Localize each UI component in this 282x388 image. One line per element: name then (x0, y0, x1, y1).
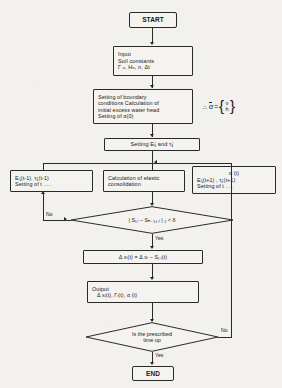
node-input-line2: Soil constants (118, 58, 188, 65)
node-right-feedback: α (t) Eᵢⱼ(t+1) , τᵢⱼ(t+1) Setting of t .… (192, 166, 276, 194)
node-left-feedback: Eᵢⱼ(t-1), τᵢⱼ(t-1) Setting of t ..... (10, 170, 93, 192)
edge-bus-to-left-box (43, 163, 44, 170)
annotation-alpha-vector: ∴ α = { v h } (203, 100, 235, 112)
node-center-line2: consolidation (108, 181, 180, 187)
node-output-line2: Δ xᵢ(t), Γᵢ(t), α (t) (92, 292, 194, 298)
node-right-feedback-line3: Setting of t ..... (197, 183, 271, 189)
edge-bus-to-center-box (152, 163, 153, 170)
node-output: Output Δ xᵢ(t), Γᵢ(t), α (t) (87, 281, 199, 303)
alpha-vector-bottom: h (226, 106, 229, 112)
arrowhead-boundary (150, 85, 154, 88)
node-time-check-label: Is the prescribed time up (132, 331, 172, 344)
alpha-symbol: α (209, 103, 213, 110)
edge-label-converge-yes: Yes (155, 235, 163, 241)
node-delta-x: Δ xᵢ(t) = Δ xᵢ − Sₜ,ᵢ(t) (83, 250, 203, 264)
equals-symbol: = (214, 103, 218, 110)
node-left-feedback-line2: Setting of t ..... (15, 181, 88, 187)
arrowhead-left-feedback (41, 191, 45, 194)
brace-close: } (230, 101, 235, 112)
node-boundary-conditions: Setting of boundary conditions Calculati… (93, 89, 193, 124)
node-end: END (132, 366, 174, 381)
arrowhead-converge-no (64, 217, 67, 221)
node-convergence-decision: | Sₜ,ᵢ − Sₙ₋₁,ₜ,ᵢ | ₂ < δ (70, 206, 234, 234)
arrowhead-output (150, 277, 154, 280)
node-time-check-line1: Is the prescribed (132, 331, 172, 337)
node-time-check-line2: time up (143, 337, 161, 343)
node-end-label: END (146, 370, 160, 378)
node-start: START (129, 12, 177, 28)
node-setting-e-tau-label: Setting Eᵢⱼ and τᵢⱼ (130, 141, 173, 148)
edge-converge-no-vertical (43, 192, 44, 220)
arrowhead-input (150, 42, 154, 45)
arrowhead-delta-x (150, 246, 154, 249)
alpha-glyph: α (209, 103, 213, 110)
edge-setting-to-bus (152, 151, 153, 163)
node-center-calculation: Calculation of elastic consolidation (103, 170, 185, 192)
edge-label-converge-no: No (46, 211, 53, 217)
flowchart-canvas: START Input Soil constants Γ ₒ, Hₒ, n, Δ… (0, 0, 282, 388)
alpha-overline (209, 102, 212, 103)
edge-label-time-no: No (221, 327, 228, 333)
alpha-vector-components: v h (225, 100, 229, 112)
node-time-check-decision: Is the prescribed time up (85, 322, 219, 352)
bus-horizontal (43, 163, 232, 164)
node-delta-x-label: Δ xᵢ(t) = Δ xᵢ − Sₜ,ᵢ(t) (119, 254, 168, 260)
edge-label-time-yes: Yes (155, 352, 163, 358)
arrowhead-bus-from-right-loop (154, 160, 157, 164)
therefore-symbol: ∴ (203, 103, 207, 110)
arrowhead-setting (150, 134, 154, 137)
edge-time-no-vertical (231, 163, 232, 338)
node-setting-e-tau: Setting Eᵢⱼ and τᵢⱼ (104, 138, 200, 151)
arrowhead-end (150, 362, 154, 365)
edge-time-no-horizontal (218, 337, 232, 338)
node-input-line3: Γ ₒ, Hₒ, n, Δt (118, 64, 188, 71)
brace-open: { (219, 101, 224, 112)
node-start-label: START (142, 16, 164, 24)
node-input: Input Soil constants Γ ₒ, Hₒ, n, Δt (113, 46, 193, 76)
node-convergence-label: | Sₜ,ᵢ − Sₙ₋₁,ₜ,ᵢ | ₂ < δ (129, 217, 176, 223)
node-boundary-line4: Setting of α(0) (98, 113, 188, 119)
node-input-line1: Input (118, 51, 188, 58)
